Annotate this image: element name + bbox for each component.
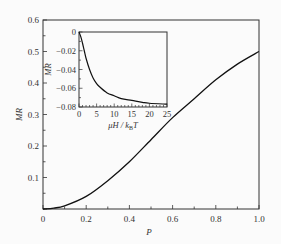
inset-ytick-label: −0.02	[56, 46, 76, 56]
main-ytick-label: 0.2	[28, 141, 39, 151]
main-xtick-label: 0	[41, 214, 46, 224]
inset-xtick-label: 20	[145, 109, 154, 119]
main-ytick-label: 0.6	[28, 15, 40, 25]
inset-ytick-label: −0.04	[56, 65, 76, 75]
inset-xtick-label: 15	[128, 109, 137, 119]
main-xtick-label: 0.2	[81, 214, 92, 224]
inset-ytick-label: −0.08	[56, 102, 76, 112]
main-xtick-label: 1.0	[253, 214, 265, 224]
main-ylabel: MR	[14, 108, 24, 122]
inset-xlabel: μH / kBT	[107, 120, 139, 131]
main-ytick-label: 0.1	[28, 173, 39, 183]
chart: 00.20.40.60.81.00.10.20.30.40.50.6PMR051…	[0, 0, 281, 244]
inset-ytick-label: −0.06	[56, 83, 76, 93]
inset-plot: 05101520250−0.02−0.04−0.06−0.08MRμH / kB…	[43, 27, 171, 131]
main-xtick-label: 0.8	[210, 214, 222, 224]
main-xtick-label: 0.6	[167, 214, 179, 224]
main-ytick-label: 0.4	[28, 78, 40, 88]
inset-xtick-label: 25	[163, 109, 172, 119]
inset-ylabel: MR	[43, 63, 53, 77]
main-xtick-label: 0.4	[124, 214, 136, 224]
main-ytick-label: 0.5	[28, 47, 40, 57]
inset-ytick-label: 0	[72, 27, 76, 37]
main-xlabel: P	[145, 227, 152, 237]
main-ytick-label: 0.3	[28, 110, 40, 120]
inset-plot-frame	[79, 32, 167, 107]
inset-xtick-label: 10	[110, 109, 119, 119]
inset-xtick-label: 0	[77, 109, 81, 119]
inset-xtick-label: 5	[94, 109, 98, 119]
